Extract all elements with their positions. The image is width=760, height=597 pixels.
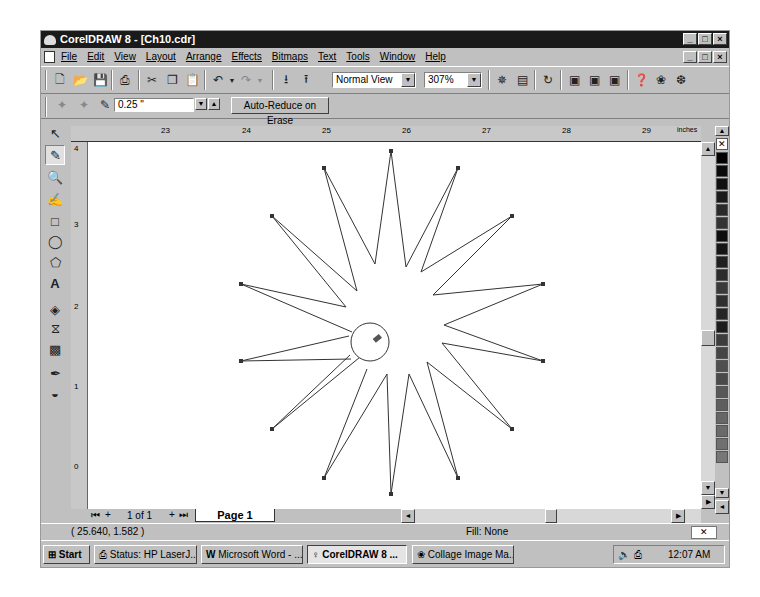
taskbar-item-printer-status[interactable]: ⎙ Status: HP LaserJ...	[94, 545, 197, 564]
color-swatch[interactable]	[716, 178, 728, 190]
menu-file[interactable]: File	[61, 49, 77, 65]
whats-this-help-icon[interactable]: ❓	[632, 71, 650, 89]
menu-edit[interactable]: Edit	[87, 49, 104, 65]
color-swatch[interactable]	[716, 412, 728, 424]
polygon-tool-icon[interactable]: ⬠	[45, 252, 65, 272]
no-color-swatch-icon[interactable]: ✕	[716, 138, 728, 150]
menu-arrange[interactable]: Arrange	[186, 49, 222, 65]
wizard-icon[interactable]: ❆	[672, 71, 690, 89]
graphic-text-icon[interactable]: ▣	[605, 71, 623, 89]
palette-scroll-down-icon[interactable]: ▼	[715, 488, 729, 498]
zoom-level-select[interactable]: 307% ▼	[424, 72, 482, 88]
eraser-tool-icon[interactable]: ✎	[45, 145, 65, 165]
eraser-option-icon[interactable]: ✦	[75, 96, 93, 114]
bug-icon[interactable]: ❀	[652, 71, 670, 89]
menu-layout[interactable]: Layout	[146, 49, 176, 65]
eraser-option-icon[interactable]: ✦	[53, 96, 71, 114]
horizontal-ruler[interactable]: 23 24 25 26 27 28 29 inches	[71, 126, 701, 143]
vertical-ruler[interactable]: 4 3 2 1 0	[71, 142, 88, 509]
horizontal-scroll-thumb[interactable]	[545, 509, 557, 523]
color-swatch[interactable]	[716, 269, 728, 281]
volume-speaker-icon[interactable]: 🔈	[618, 546, 630, 563]
color-swatch[interactable]	[716, 438, 728, 450]
to-back-icon[interactable]: ▣	[585, 71, 603, 89]
page-tab-page-1[interactable]: Page 1	[195, 509, 275, 522]
interactive-blend-tool-icon[interactable]: ⧖	[45, 319, 65, 339]
color-swatch[interactable]	[716, 360, 728, 372]
start-button[interactable]: ⊞ Start	[43, 545, 90, 564]
chevron-down-icon[interactable]: ▼	[467, 73, 481, 87]
corel-script-icon[interactable]: ▤	[513, 71, 531, 89]
add-page-after-icon[interactable]: +	[169, 509, 175, 520]
spin-down-icon[interactable]: ▼	[195, 98, 207, 110]
color-swatch[interactable]	[716, 152, 728, 164]
restore-button[interactable]: □	[698, 33, 712, 45]
drawing-canvas[interactable]	[88, 142, 701, 509]
color-swatch[interactable]	[716, 230, 728, 242]
color-swatch[interactable]	[716, 204, 728, 216]
color-swatch[interactable]	[716, 425, 728, 437]
import-icon[interactable]: ⭳	[277, 71, 295, 89]
minimize-button[interactable]: _	[683, 33, 697, 45]
doc-minimize-button[interactable]: _	[683, 51, 697, 63]
doc-restore-button[interactable]: □	[698, 51, 712, 63]
color-swatch[interactable]	[716, 282, 728, 294]
color-swatch[interactable]	[716, 217, 728, 229]
doc-close-button[interactable]: ×	[713, 51, 727, 63]
outline-tool-pen-icon[interactable]: ✒	[45, 363, 65, 383]
menu-tools[interactable]: Tools	[346, 49, 369, 65]
color-swatch[interactable]	[716, 243, 728, 255]
pick-tool-arrow-icon[interactable]: ↖	[45, 123, 65, 143]
color-swatch[interactable]	[716, 165, 728, 177]
menu-help[interactable]: Help	[425, 49, 446, 65]
taskbar-item-microsoft-word[interactable]: W Microsoft Word - ...	[201, 545, 303, 564]
vertical-scrollbar[interactable]: ▲ ▼ ▶	[701, 142, 715, 509]
menu-effects[interactable]: Effects	[231, 49, 261, 65]
color-swatch[interactable]	[716, 347, 728, 359]
copy-icon[interactable]: ❐	[163, 71, 181, 89]
to-front-icon[interactable]: ▣	[565, 71, 583, 89]
menu-bitmaps[interactable]: Bitmaps	[272, 49, 308, 65]
eraser-thickness-input[interactable]: 0.25 "	[114, 98, 194, 112]
new-document-icon[interactable]: 🗋	[51, 71, 69, 89]
palette-scroll-up-icon[interactable]: ▲	[715, 126, 729, 136]
taskbar-item-collage-image-manager[interactable]: ❀ Collage Image Ma...	[412, 545, 514, 564]
application-launcher-icon[interactable]: ✵	[493, 71, 511, 89]
rectangle-tool-icon[interactable]: □	[45, 211, 65, 231]
thickness-spinner[interactable]: ▼ ▲	[195, 98, 221, 112]
menu-text[interactable]: Text	[318, 49, 336, 65]
last-page-icon[interactable]: ⏭	[179, 509, 188, 521]
view-mode-select[interactable]: Normal View ▼	[332, 72, 416, 88]
color-swatch[interactable]	[716, 373, 728, 385]
save-disk-icon[interactable]: 💾	[91, 71, 109, 89]
scroll-up-icon[interactable]: ▲	[701, 142, 715, 156]
freehand-tool-icon[interactable]: ✍	[45, 189, 65, 209]
refresh-window-icon[interactable]: ↻	[539, 71, 557, 89]
color-swatch[interactable]	[716, 256, 728, 268]
vertical-scroll-thumb[interactable]	[701, 330, 715, 346]
cut-scissors-icon[interactable]: ✂	[143, 71, 161, 89]
color-swatch[interactable]	[716, 308, 728, 320]
scroll-down-icon[interactable]: ▼	[701, 481, 715, 495]
color-swatch[interactable]	[716, 451, 728, 463]
toolbar-grip[interactable]	[45, 70, 47, 90]
ellipse-tool-icon[interactable]: ◯	[45, 231, 65, 251]
color-swatch[interactable]	[716, 191, 728, 203]
text-tool-icon[interactable]: A	[45, 273, 65, 293]
horizontal-scrollbar[interactable]: ◄ ▶	[401, 509, 701, 523]
document-icon[interactable]	[44, 51, 55, 63]
first-page-icon[interactable]: ⏮	[91, 509, 100, 521]
network-tray-icon[interactable]: ⎙	[634, 546, 642, 563]
toolbar-grip[interactable]	[45, 97, 47, 117]
close-button[interactable]: ×	[713, 33, 727, 45]
taskbar-item-coreldraw[interactable]: ♀ CorelDRAW 8 ...	[307, 545, 407, 564]
print-icon[interactable]: ⎙	[116, 71, 134, 89]
auto-reduce-on-erase-button[interactable]: Auto-Reduce on Erase	[231, 97, 329, 114]
interactive-fill-tool-icon[interactable]: ◈	[45, 299, 65, 319]
paste-clipboard-icon[interactable]: 📋	[183, 71, 201, 89]
menu-window[interactable]: Window	[380, 49, 416, 65]
export-icon[interactable]: ⭱	[297, 71, 315, 89]
interactive-transparency-tool-icon[interactable]: ▩	[45, 339, 65, 359]
zoom-tool-magnifier-icon[interactable]: 🔍	[45, 167, 65, 187]
color-swatch[interactable]	[716, 321, 728, 333]
